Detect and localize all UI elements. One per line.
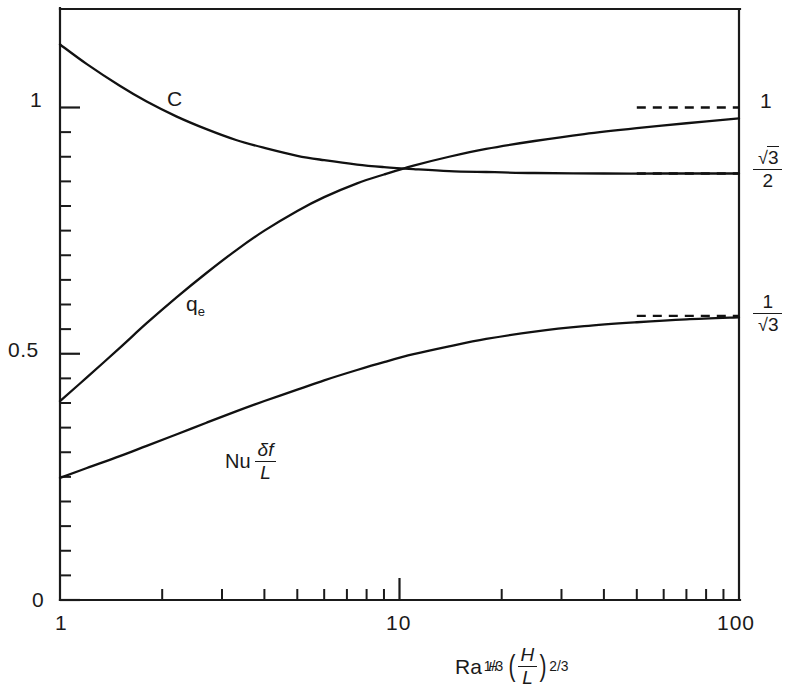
qe-base: q [186,292,198,315]
y-tick-label-0-5: 0.5 [8,339,39,360]
nu-text: Nu [225,451,251,471]
curve-C [60,44,739,173]
asymptote-lines [637,108,739,316]
curve-label-qe: qe [186,293,205,318]
L-denominator: L [255,462,277,483]
chart-canvas [0,0,791,694]
curve-Nu*delta_f/L [60,317,739,478]
paren-open: ( [508,651,515,681]
delta-f-numerator: δf [255,440,277,462]
qe-subscript: e [198,304,205,319]
data-curves [60,44,739,477]
ra-subscript: H [488,660,497,673]
x-tick-label-100: 100 [717,612,755,633]
y-tick-label-0: 0 [32,589,44,610]
y-axis-ticks [60,108,80,601]
right-axis-label-one-over-sqrt3: 1 3 [753,292,782,335]
one-numerator: 1 [753,292,782,314]
right-axis-label-sqrt3-over-2: 3 2 [753,148,782,191]
curve-label-C: C [167,88,182,109]
y-tick-label-1: 1 [30,89,42,110]
x-tick-label-10: 10 [386,612,411,633]
paren-close: ) [540,651,547,681]
sqrt3-denominator: 3 [753,314,782,335]
x-axis-ticks [162,578,723,600]
x-tick-label-1: 1 [55,612,68,633]
right-axis-label-one: 1 [760,90,772,111]
two-denominator: 2 [753,170,782,191]
H-numerator: H [518,645,538,667]
axes-frame [60,8,740,600]
L-denominator-caption: L [518,667,538,688]
x-axis-caption: Ra1/3H ( H L )2/3 [455,645,569,688]
paren-exponent: 2/3 [549,660,568,674]
figure-container: 1 0.5 0 1 10 100 1 3 2 1 3 C qe Nu δf L … [0,0,791,694]
curve-label-nu-delta-over-L: Nu δf L [225,440,276,483]
sqrt3-numerator: 3 [753,148,782,170]
ra-symbol: Ra [455,656,482,677]
